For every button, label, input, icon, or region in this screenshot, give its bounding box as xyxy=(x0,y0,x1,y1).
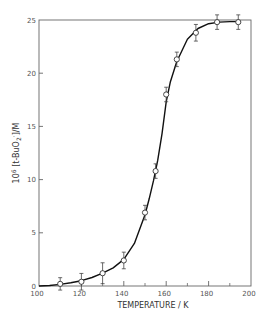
open-circle-marker xyxy=(79,279,84,284)
open-circle-marker xyxy=(121,258,126,263)
open-circle-marker xyxy=(58,281,63,286)
x-tick-label: 180 xyxy=(200,290,213,298)
y-tick-label: 25 xyxy=(27,17,36,25)
curve-path xyxy=(39,22,240,286)
open-circle-marker xyxy=(100,271,105,276)
open-circle-marker xyxy=(153,168,158,173)
open-circle-marker xyxy=(142,210,147,215)
open-circle-marker xyxy=(214,20,219,25)
data-point xyxy=(236,15,241,30)
open-circle-marker xyxy=(236,20,241,25)
y-tick-label: 5 xyxy=(32,229,36,237)
x-tick-label: 200 xyxy=(242,290,255,298)
data-point xyxy=(100,263,105,284)
x-tick-label: 160 xyxy=(158,290,171,298)
open-circle-marker xyxy=(193,30,198,35)
x-tick-label: 120 xyxy=(73,290,86,298)
x-tick-label: 140 xyxy=(115,290,128,298)
x-axis-label: TEMPERATURE / K xyxy=(116,301,189,310)
chart: 0510152025100120140160180200 TEMPERATURE… xyxy=(0,0,269,328)
y-axis-label: 106 [t-BuO2·]/M xyxy=(10,123,22,184)
fitted-curve xyxy=(39,22,240,286)
data-points xyxy=(58,15,241,290)
data-point xyxy=(79,273,84,290)
open-circle-marker xyxy=(164,92,169,97)
data-point xyxy=(174,52,179,67)
y-tick-label: 10 xyxy=(27,176,36,184)
x-tick-label: 100 xyxy=(30,290,43,298)
data-point xyxy=(214,15,219,30)
plot-frame xyxy=(39,20,251,286)
chart-axes: 0510152025100120140160180200 xyxy=(27,17,256,299)
data-point xyxy=(164,87,169,102)
data-point xyxy=(193,24,198,41)
open-circle-marker xyxy=(174,57,179,62)
data-point xyxy=(121,252,126,269)
y-tick-label: 20 xyxy=(27,70,36,78)
y-tick-label: 15 xyxy=(27,123,36,131)
data-point xyxy=(58,278,63,290)
axis-labels: TEMPERATURE / K106 [t-BuO2·]/M xyxy=(10,123,189,310)
